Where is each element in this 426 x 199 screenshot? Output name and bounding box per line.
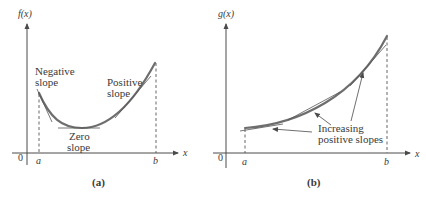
figure: f(x) x 0 a b Negative slope Positive slo… bbox=[0, 0, 426, 199]
negative-slope-label-2: slope bbox=[35, 76, 58, 88]
caption-b: (b) bbox=[307, 176, 321, 189]
pointer-arrow-low bbox=[273, 129, 312, 132]
x-tick-a-b: a bbox=[242, 156, 247, 167]
y-axis-label-b: g(x) bbox=[218, 8, 235, 20]
increasing-slopes-label-2: positive slopes bbox=[318, 133, 383, 145]
zero-slope-label-2: slope bbox=[67, 141, 90, 153]
x-tick-a-a: a bbox=[36, 155, 41, 166]
x-tick-b-b: b bbox=[384, 156, 389, 167]
x-tick-b-a: b bbox=[153, 155, 158, 166]
y-axis-label-a: f(x) bbox=[18, 8, 33, 20]
caption-a: (a) bbox=[92, 176, 105, 189]
x-axis-label-b: x bbox=[414, 148, 420, 159]
tangent-mid bbox=[288, 92, 340, 120]
origin-label-a: 0 bbox=[18, 152, 23, 163]
panel-b: g(x) x 0 a b Increasing positive slopes … bbox=[213, 8, 420, 189]
pointer-arrow-high bbox=[351, 73, 363, 121]
tangent-high bbox=[350, 45, 386, 86]
x-axis-label-a: x bbox=[182, 147, 188, 158]
origin-label-b: 0 bbox=[218, 152, 223, 163]
panel-a: f(x) x 0 a b Negative slope Positive slo… bbox=[12, 8, 188, 189]
positive-slope-label-2: slope bbox=[107, 87, 130, 99]
